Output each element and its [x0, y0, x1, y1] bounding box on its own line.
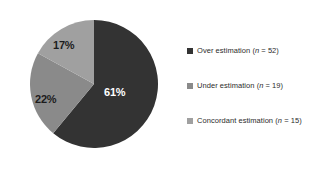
- legend-label-suffix: = 19): [263, 81, 283, 90]
- pie-chart-figure: 61% 22% 17% Over estimation (n = 52) Und…: [0, 0, 314, 177]
- legend-swatch-icon-concordant-estimation: [187, 118, 193, 124]
- legend-swatch-icon-over-estimation: [187, 48, 193, 54]
- legend-swatch-icon-under-estimation: [187, 83, 193, 89]
- legend-label-prefix: Under estimation (: [197, 81, 259, 90]
- legend-label-prefix: Over estimation (: [197, 46, 255, 55]
- legend-item-over-estimation[interactable]: Over estimation (n = 52): [187, 46, 313, 56]
- legend-label-suffix: = 15): [282, 116, 302, 125]
- legend-item-under-estimation[interactable]: Under estimation (n = 19): [187, 81, 313, 91]
- pie-slice-label-over-estimation: 61%: [104, 86, 125, 98]
- pie-chart-plot-area: 61% 22% 17%: [30, 8, 158, 160]
- legend-label-concordant-estimation: Concordant estimation (n = 15): [197, 116, 302, 126]
- legend-label-over-estimation: Over estimation (n = 52): [197, 46, 279, 56]
- legend-item-concordant-estimation[interactable]: Concordant estimation (n = 15): [187, 116, 313, 126]
- legend-label-prefix: Concordant estimation (: [197, 116, 278, 125]
- pie-slice-label-concordant-estimation: 17%: [53, 39, 74, 51]
- chart-legend: Over estimation (n = 52) Under estimatio…: [187, 46, 313, 126]
- legend-label-suffix: = 52): [259, 46, 279, 55]
- pie-chart-svg: [30, 8, 158, 160]
- legend-label-under-estimation: Under estimation (n = 19): [197, 81, 283, 91]
- pie-slice-label-under-estimation: 22%: [35, 93, 56, 105]
